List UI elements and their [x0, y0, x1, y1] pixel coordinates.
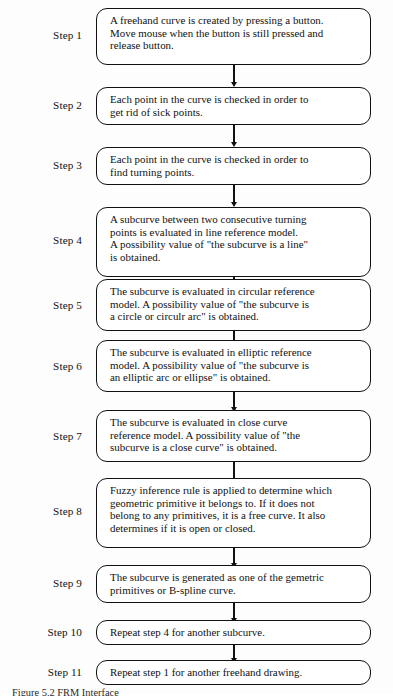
step-label-3: Step 3: [0, 159, 82, 171]
step-box-3: Each point in the curve is checked in or…: [96, 147, 371, 185]
step-box-9: The subcurve is generated as one of the …: [96, 565, 371, 603]
step-text-9: The subcurve is generated as one of the …: [110, 571, 361, 596]
step-box-6: The subcurve is evaluated in elliptic re…: [96, 340, 371, 392]
step-box-7: The subcurve is evaluated in close curve…: [96, 410, 371, 462]
step-text-11: Repeat step 1 for another freehand drawi…: [110, 666, 361, 679]
step-box-11: Repeat step 1 for another freehand drawi…: [96, 660, 371, 685]
step-label-4: Step 4: [0, 234, 82, 246]
step-text-3: Each point in the curve is checked in or…: [110, 153, 361, 178]
step-label-11: Step 11: [0, 666, 82, 678]
step-label-9: Step 9: [0, 577, 82, 589]
connector-6-to-7: [231, 392, 237, 412]
step-box-5: The subcurve is evaluated in circular re…: [96, 279, 371, 331]
step-text-8: Fuzzy inference rule is applied to deter…: [110, 484, 361, 534]
step-box-10: Repeat step 4 for another subcurve.: [96, 620, 371, 645]
step-box-4: A subcurve between two consecutive turni…: [96, 207, 371, 277]
step-text-2: Each point in the curve is checked in or…: [110, 93, 361, 118]
figure-caption: Figure 5.2 FRM Interface: [12, 687, 119, 696]
step-text-1: A freehand curve is created by pressing …: [110, 14, 361, 52]
step-label-8: Step 8: [0, 505, 82, 517]
step-box-2: Each point in the curve is checked in or…: [96, 87, 371, 125]
step-label-1: Step 1: [0, 29, 82, 41]
connector-3-to-4: [231, 185, 237, 207]
step-text-6: The subcurve is evaluated in elliptic re…: [110, 346, 361, 384]
step-box-1: A freehand curve is created by pressing …: [96, 8, 371, 65]
connector-2-to-3: [231, 125, 237, 147]
step-label-10: Step 10: [0, 626, 82, 638]
step-text-7: The subcurve is evaluated in close curve…: [110, 416, 361, 454]
step-label-7: Step 7: [0, 430, 82, 442]
connector-1-to-2: [231, 65, 237, 87]
step-label-6: Step 6: [0, 360, 82, 372]
step-label-5: Step 5: [0, 299, 82, 311]
step-text-5: The subcurve is evaluated in circular re…: [110, 285, 361, 323]
step-label-2: Step 2: [0, 99, 82, 111]
step-text-4: A subcurve between two consecutive turni…: [110, 213, 361, 263]
step-text-10: Repeat step 4 for another subcurve.: [110, 626, 361, 639]
step-box-8: Fuzzy inference rule is applied to deter…: [96, 478, 371, 548]
